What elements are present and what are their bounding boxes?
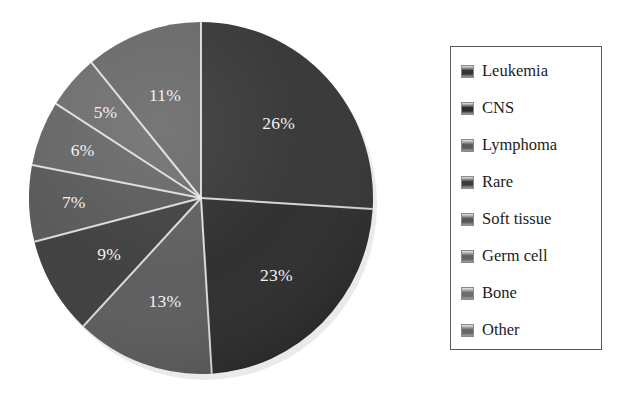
legend-swatch-icon: [461, 324, 474, 337]
legend-item-label: Soft tissue: [482, 211, 551, 228]
legend-swatch-icon: [461, 102, 474, 115]
legend-item-rare[interactable]: Rare: [461, 164, 601, 201]
legend-item-soft-tissue[interactable]: Soft tissue: [461, 201, 601, 238]
legend-item-lymphoma[interactable]: Lymphoma: [461, 127, 601, 164]
legend-item-label: CNS: [482, 100, 514, 117]
legend-item-list: Leukemia CNS Lymphoma Rare Soft tissue G: [461, 53, 601, 349]
legend-item-label: Germ cell: [482, 248, 548, 265]
legend-item-label: Other: [482, 322, 520, 339]
pie-chart-area: 26% 23% 13% 9% 7% 6% 5% 11%: [20, 8, 390, 388]
legend-swatch-icon: [461, 139, 474, 152]
legend-swatch-icon: [461, 287, 474, 300]
pie-label-leukemia: 26%: [262, 113, 295, 133]
legend-swatch-icon: [461, 65, 474, 78]
pie-label-lymphoma: 13%: [149, 291, 182, 311]
legend-item-bone[interactable]: Bone: [461, 275, 601, 312]
pie-label-bone: 5%: [94, 102, 118, 122]
chart-legend: Leukemia CNS Lymphoma Rare Soft tissue G: [450, 46, 602, 350]
legend-item-label: Leukemia: [482, 63, 548, 80]
pie-label-rare: 9%: [97, 244, 121, 264]
pie-svg: 26% 23% 13% 9% 7% 6% 5% 11%: [20, 8, 390, 388]
pie-label-other: 11%: [149, 85, 181, 105]
legend-item-cns[interactable]: CNS: [461, 90, 601, 127]
legend-item-label: Lymphoma: [482, 137, 557, 154]
pie-label-cns: 23%: [260, 265, 293, 285]
legend-item-label: Bone: [482, 285, 517, 302]
pie-label-soft-tissue: 7%: [62, 192, 86, 212]
legend-item-other[interactable]: Other: [461, 312, 601, 349]
legend-swatch-icon: [461, 176, 474, 189]
legend-item-leukemia[interactable]: Leukemia: [461, 53, 601, 90]
legend-swatch-icon: [461, 213, 474, 226]
pie-chart-figure: 26% 23% 13% 9% 7% 6% 5% 11% Leukemia CNS: [0, 0, 636, 397]
legend-item-label: Rare: [482, 174, 513, 191]
pie-label-germ-cell: 6%: [71, 140, 95, 160]
legend-swatch-icon: [461, 250, 474, 263]
legend-item-germ-cell[interactable]: Germ cell: [461, 238, 601, 275]
